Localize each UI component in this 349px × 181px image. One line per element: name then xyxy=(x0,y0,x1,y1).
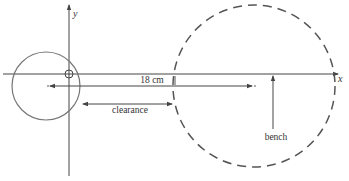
distance-line xyxy=(47,85,256,87)
bench-label: bench xyxy=(265,132,288,142)
clearance-label: clearance xyxy=(112,105,148,115)
distance-label: 18 cm xyxy=(140,75,164,85)
diagram-canvas: x y 18 cm clearance bench xyxy=(0,0,349,181)
y-axis-label: y xyxy=(72,8,78,19)
x-axis-label: x xyxy=(337,73,343,84)
